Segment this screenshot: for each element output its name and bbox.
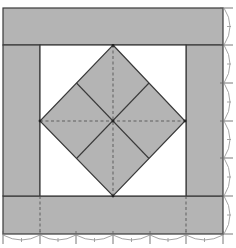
left-band bbox=[3, 45, 40, 196]
bottom-band bbox=[3, 196, 223, 234]
dot-diamond-top bbox=[112, 44, 115, 47]
dot-diamond-bottom bbox=[112, 195, 115, 198]
dot-diamond-center bbox=[112, 120, 115, 123]
right-band bbox=[186, 45, 223, 196]
quilt-block-diagram: Square-in-a-square quilt block with bord… bbox=[0, 0, 236, 248]
top-band bbox=[3, 8, 223, 45]
dot-diamond-right bbox=[184, 120, 187, 123]
dot-diamond-left bbox=[39, 120, 42, 123]
